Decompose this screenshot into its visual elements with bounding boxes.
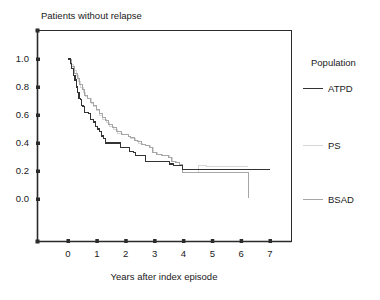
x-tick-label: 5 (204, 249, 220, 259)
legend-swatch-atpd (303, 88, 323, 89)
x-tick-label: 3 (147, 249, 163, 259)
y-tick-label: 0.0 (3, 194, 29, 204)
legend-label-bsad: BSAD (328, 194, 354, 206)
x-tick-label: 7 (262, 249, 278, 259)
x-tick-label: 2 (118, 249, 134, 259)
series-line-atpd (68, 59, 270, 170)
series-line-ps (68, 59, 248, 172)
y-tick-label: 0.2 (3, 166, 29, 176)
series-lines (68, 59, 270, 198)
axis-frame (36, 29, 292, 244)
y-tick-label: 1.0 (3, 54, 29, 64)
x-tick-label: 6 (233, 249, 249, 259)
legend-title: Population (311, 57, 356, 69)
legend-swatch-bsad (303, 199, 323, 200)
legend-label-ps: PS (328, 140, 341, 152)
axis-ticks (36, 58, 272, 244)
legend-swatch-ps (303, 145, 323, 146)
x-tick-label: 0 (60, 249, 76, 259)
x-tick-label: 1 (89, 249, 105, 259)
y-tick-label: 0.4 (3, 138, 29, 148)
y-tick-label: 0.6 (3, 110, 29, 120)
x-tick-label: 4 (175, 249, 191, 259)
survival-curve-figure: Patients without relapse 0.00.20.40.60.8… (0, 0, 380, 300)
series-line-bsad (68, 59, 248, 198)
x-axis-title: Years after index episode (37, 271, 291, 283)
y-tick-label: 0.8 (3, 82, 29, 92)
legend-label-atpd: ATPD (328, 83, 353, 95)
